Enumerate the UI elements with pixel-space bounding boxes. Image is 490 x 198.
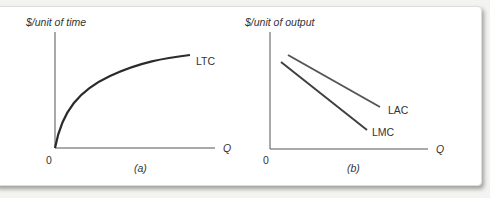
panel-b: $/unit of output Q 0 (b) LAC LMC bbox=[244, 16, 444, 174]
panel-a-caption: (a) bbox=[134, 162, 147, 174]
lac-label: LAC bbox=[388, 104, 409, 116]
panel-b-origin-label: 0 bbox=[263, 154, 269, 166]
lmc-line bbox=[281, 62, 367, 130]
panel-b-caption: (b) bbox=[347, 162, 360, 174]
lac-line bbox=[288, 55, 380, 107]
panel-a-origin-label: 0 bbox=[46, 154, 52, 166]
panel-a: $/unit of time Q 0 (a) LTC bbox=[25, 16, 231, 174]
panel-b-x-axis-label: Q bbox=[436, 143, 444, 155]
panel-a-y-axis-label: $/unit of time bbox=[25, 16, 86, 28]
panel-a-x-axis-label: Q bbox=[223, 142, 231, 154]
cost-curves-figure: $/unit of time Q 0 (a) LTC $/unit of out… bbox=[0, 0, 490, 198]
ltc-curve bbox=[55, 55, 190, 148]
panel-b-y-axis-label: $/unit of output bbox=[244, 16, 316, 28]
ltc-label: LTC bbox=[196, 55, 215, 67]
lmc-label: LMC bbox=[372, 126, 395, 138]
